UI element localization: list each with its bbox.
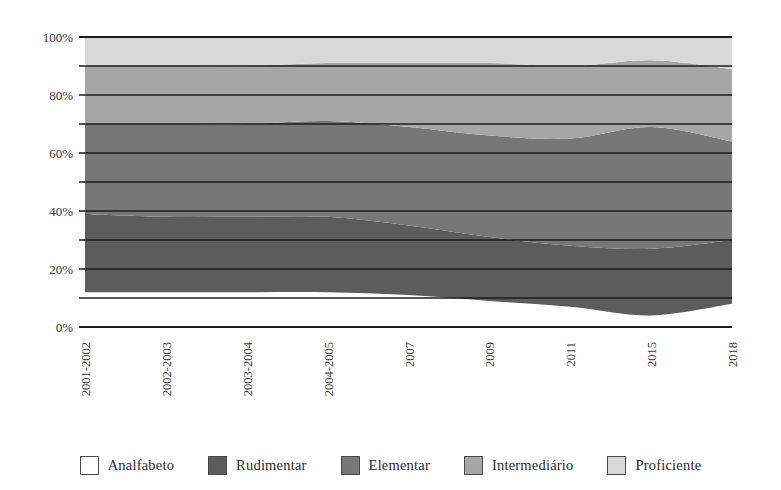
x-axis-tick-label: 2009 xyxy=(483,342,497,367)
y-axis-tick-label: 20% xyxy=(49,262,73,277)
legend-item-intermediario[interactable]: Intermediário xyxy=(464,456,574,475)
legend-item-proficiente[interactable]: Proficiente xyxy=(607,456,701,475)
y-axis-tick-label: 80% xyxy=(49,88,73,103)
stacked-area-chart: 0%20%40%60%80%100%2001-20022002-20032003… xyxy=(0,0,781,440)
x-axis-tick-label: 2007 xyxy=(403,342,417,367)
y-axis-tick-label: 40% xyxy=(49,204,73,219)
legend-item-analfabeto[interactable]: Analfabeto xyxy=(80,456,174,475)
y-axis-tick-label: 60% xyxy=(49,146,73,161)
x-axis-tick-label: 2004-2005 xyxy=(322,342,336,396)
legend-label-intermediario: Intermediário xyxy=(492,457,574,474)
x-axis-tick-label: 2003-2004 xyxy=(241,341,255,396)
legend-item-rudimentar[interactable]: Rudimentar xyxy=(208,456,306,475)
legend-item-elementar[interactable]: Elementar xyxy=(341,456,430,475)
x-axis-tick-label: 2015 xyxy=(645,342,659,367)
chart-root: 0%20%40%60%80%100%2001-20022002-20032003… xyxy=(0,0,781,490)
y-axis-tick-label: 0% xyxy=(56,320,74,335)
legend-swatch-intermediario xyxy=(464,456,483,475)
plot-area: 0%20%40%60%80%100%2001-20022002-20032003… xyxy=(0,0,781,440)
legend-label-proficiente: Proficiente xyxy=(635,457,701,474)
x-axis-tick-label: 2011 xyxy=(564,342,578,367)
y-axis-tick-label: 100% xyxy=(43,30,74,45)
legend-swatch-rudimentar xyxy=(208,456,227,475)
x-axis-tick-label: 2001-2002 xyxy=(79,342,93,396)
legend-swatch-analfabeto xyxy=(80,456,99,475)
legend-swatch-proficiente xyxy=(607,456,626,475)
legend-label-elementar: Elementar xyxy=(369,457,430,474)
x-axis-tick-label: 2018 xyxy=(726,342,740,367)
legend-label-analfabeto: Analfabeto xyxy=(108,457,174,474)
x-axis-tick-label: 2002-2003 xyxy=(160,342,174,396)
legend-swatch-elementar xyxy=(341,456,360,475)
chart-legend: Analfabeto Rudimentar Elementar Intermed… xyxy=(0,440,781,490)
legend-label-rudimentar: Rudimentar xyxy=(236,457,306,474)
